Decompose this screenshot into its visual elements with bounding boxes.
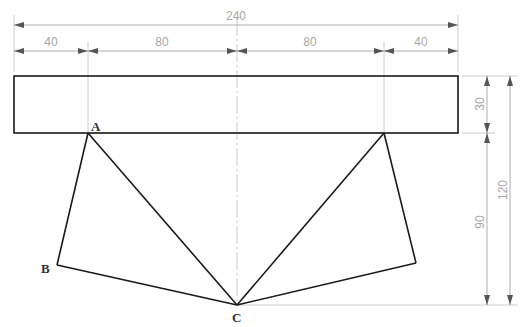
edge-right-bottom-c <box>237 263 416 305</box>
edge-right-side <box>384 133 416 263</box>
dim-text-30: 30 <box>473 97 487 111</box>
point-label-a: A <box>91 119 101 134</box>
drawing-canvas: 240 40 80 80 40 30 90 120 A B C <box>0 0 521 327</box>
extension-lines <box>14 15 518 305</box>
dim-text-120: 120 <box>496 180 510 200</box>
dim-text-80-right: 80 <box>303 35 317 49</box>
dim-text-90: 90 <box>473 215 487 229</box>
point-label-b: B <box>41 261 50 276</box>
top-rectangle <box>14 76 458 133</box>
part-outline <box>14 76 458 305</box>
horizontal-dimensions <box>14 25 458 51</box>
edge-a-b <box>57 133 88 265</box>
dim-text-240: 240 <box>226 9 246 23</box>
edge-right-top-c <box>237 133 384 305</box>
edge-a-c <box>88 133 237 305</box>
dim-text-40-left: 40 <box>44 35 58 49</box>
edge-b-c <box>57 265 237 305</box>
point-label-c: C <box>232 310 241 325</box>
dim-text-40-right: 40 <box>414 35 428 49</box>
dim-text-80-left: 80 <box>155 35 169 49</box>
